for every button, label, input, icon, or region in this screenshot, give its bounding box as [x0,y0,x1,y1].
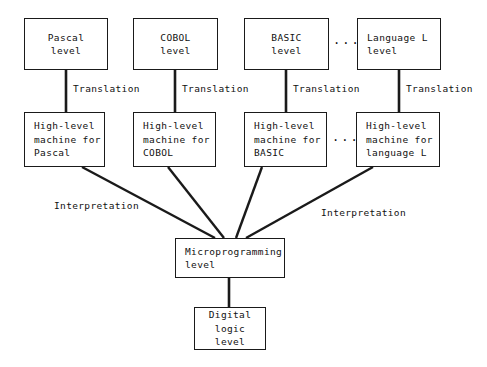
language-level-box-cobol-line1: COBOL [134,31,217,45]
interpretation-label-right: Interpretation [321,207,406,219]
ellipsis-language-level: ··· [333,37,361,49]
language-level-box-language-l-line1: Language L [358,31,440,45]
digital-logic-level-box-line2: logic [195,322,265,336]
interpretation-label-left: Interpretation [54,200,139,212]
digital-logic-level-box[interactable]: Digital logic level [194,307,266,350]
language-level-box-language-l-line2: level [358,44,440,58]
machine-level-box-cobol[interactable]: High-level machine for COBOL [133,112,216,167]
machine-level-box-cobol-line1: High-level [134,119,215,133]
machine-level-box-language-l-line3: language L [357,146,439,160]
machine-level-box-language-l-line2: machine for [357,133,439,147]
machine-level-box-pascal-line1: High-level [25,119,104,133]
machine-level-box-pascal[interactable]: High-level machine for Pascal [24,112,105,167]
machine-level-box-language-l-line1: High-level [357,119,439,133]
machine-level-box-basic-line2: machine for [245,133,326,147]
language-level-box-pascal-line1: Pascal [25,31,107,45]
digital-logic-level-box-line1: Digital [195,308,265,322]
machine-level-box-basic-line1: High-level [245,119,326,133]
machine-level-box-pascal-line2: machine for [25,133,104,147]
translation-label-pascal: Translation [73,83,140,95]
microprogramming-level-box-line1: Microprogramming [176,245,284,259]
interpretation-connector-basic [236,167,262,238]
language-level-box-pascal[interactable]: Pascal level [24,18,108,70]
microprogramming-level-box[interactable]: Microprogramming level [175,238,285,278]
language-level-box-cobol-line2: level [134,44,217,58]
machine-level-box-cobol-line3: COBOL [134,146,215,160]
interpretation-connector-language-l [246,167,373,238]
translation-label-language-l: Translation [406,83,473,95]
diagram-canvas: Pascal level COBOL level BASIC level ···… [0,0,487,367]
machine-level-box-basic-line3: BASIC [245,146,326,160]
translation-label-cobol: Translation [182,83,249,95]
language-level-box-language-l[interactable]: Language L level [357,18,441,70]
translation-label-basic: Translation [293,83,360,95]
machine-level-box-pascal-line3: Pascal [25,146,104,160]
language-level-box-basic[interactable]: BASIC level [244,18,329,70]
language-level-box-pascal-line2: level [25,44,107,58]
machine-level-box-basic[interactable]: High-level machine for BASIC [244,112,327,167]
microprogramming-level-box-line2: level [176,258,284,272]
language-level-box-basic-line2: level [245,44,328,58]
language-level-box-cobol[interactable]: COBOL level [133,18,218,70]
digital-logic-level-box-line3: level [195,335,265,349]
ellipsis-machine-level: ··· [332,134,360,146]
language-level-box-basic-line1: BASIC [245,31,328,45]
machine-level-box-cobol-line2: machine for [134,133,215,147]
machine-level-box-language-l[interactable]: High-level machine for language L [356,112,440,167]
